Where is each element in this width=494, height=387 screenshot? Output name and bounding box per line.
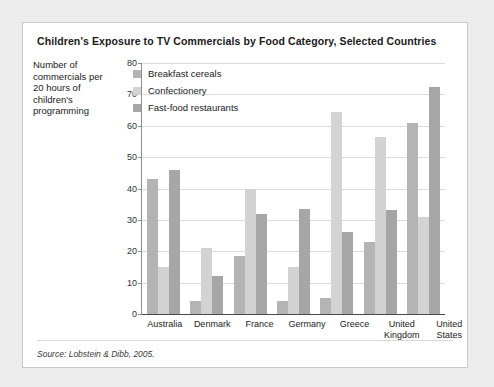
legend-label: Fast-food restaurants bbox=[148, 102, 238, 113]
source-divider bbox=[37, 340, 453, 341]
bar[interactable] bbox=[256, 214, 267, 314]
bar[interactable] bbox=[147, 179, 158, 314]
x-axis-label-line: Greece bbox=[331, 319, 378, 330]
y-axis-tick-label: 60 bbox=[127, 121, 137, 131]
x-axis-label: Australia bbox=[141, 319, 188, 341]
y-axis-tick-label: 30 bbox=[127, 215, 137, 225]
y-axis-tick-label: 10 bbox=[127, 278, 137, 288]
bar[interactable] bbox=[234, 256, 245, 314]
x-axis-label-line: Australia bbox=[141, 319, 188, 330]
y-axis-title: Number of commercials per 20 hours of ch… bbox=[33, 59, 115, 117]
y-axis-tick-label: 0 bbox=[132, 309, 137, 319]
x-axis-label-line: United bbox=[426, 319, 473, 330]
bar[interactable] bbox=[288, 267, 299, 314]
x-axis-label: France bbox=[236, 319, 283, 341]
source-note: Source: Lobstein & Dibb, 2005. bbox=[37, 349, 155, 359]
y-axis-tick-label: 50 bbox=[127, 152, 137, 162]
bar[interactable] bbox=[277, 301, 288, 314]
bar[interactable] bbox=[190, 301, 201, 314]
x-axis-label-line: Germany bbox=[283, 319, 330, 330]
bar[interactable] bbox=[429, 87, 440, 314]
x-axis-label-line: France bbox=[236, 319, 283, 330]
y-axis-tick-label: 20 bbox=[127, 246, 137, 256]
tick-mark bbox=[138, 314, 142, 315]
figure-card: Children's Exposure to TV Commercials by… bbox=[22, 22, 468, 368]
bar[interactable] bbox=[342, 232, 353, 314]
bar-group bbox=[315, 63, 358, 314]
x-axis-label: UnitedStates bbox=[426, 319, 473, 341]
legend-item[interactable]: Fast-food restaurants bbox=[133, 101, 238, 114]
x-axis-label: UnitedKingdom bbox=[378, 319, 425, 341]
x-axis-labels: AustraliaDenmarkFranceGermanyGreeceUnite… bbox=[141, 319, 473, 341]
page-title: Children's Exposure to TV Commercials by… bbox=[37, 35, 436, 47]
legend-swatch-icon bbox=[133, 70, 141, 78]
chart-legend: Breakfast cerealsConfectioneryFast-food … bbox=[133, 67, 238, 118]
legend-item[interactable]: Breakfast cereals bbox=[133, 67, 238, 80]
bar[interactable] bbox=[158, 267, 169, 314]
bar-group bbox=[358, 63, 401, 314]
bar[interactable] bbox=[418, 217, 429, 314]
bar[interactable] bbox=[320, 298, 331, 314]
bar[interactable] bbox=[331, 112, 342, 314]
legend-item[interactable]: Confectionery bbox=[133, 84, 238, 97]
bar[interactable] bbox=[375, 137, 386, 314]
legend-label: Confectionery bbox=[148, 85, 207, 96]
bar[interactable] bbox=[201, 248, 212, 314]
bar[interactable] bbox=[169, 170, 180, 314]
legend-swatch-icon bbox=[133, 87, 141, 95]
bar[interactable] bbox=[212, 276, 223, 314]
y-axis-tick-label: 40 bbox=[127, 184, 137, 194]
legend-label: Breakfast cereals bbox=[148, 68, 221, 79]
x-axis-label-line: Denmark bbox=[188, 319, 235, 330]
x-axis-label: Denmark bbox=[188, 319, 235, 341]
bar[interactable] bbox=[364, 242, 375, 314]
bar-group bbox=[272, 63, 315, 314]
bar[interactable] bbox=[299, 209, 310, 314]
legend-swatch-icon bbox=[133, 104, 141, 112]
bar[interactable] bbox=[386, 210, 397, 314]
bar[interactable] bbox=[407, 123, 418, 314]
bar-group bbox=[402, 63, 445, 314]
bar[interactable] bbox=[245, 189, 256, 315]
x-axis-label-line: United bbox=[378, 319, 425, 330]
x-axis-label: Germany bbox=[283, 319, 330, 341]
x-axis-label: Greece bbox=[331, 319, 378, 341]
